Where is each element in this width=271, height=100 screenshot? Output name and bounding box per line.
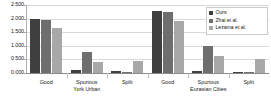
x-axis-category-label: Good	[148, 79, 189, 86]
y-axis-tick-label: 1.000	[11, 43, 24, 48]
bar	[192, 71, 202, 73]
y-axis-tick-label: 1.500	[11, 29, 24, 34]
bar	[82, 52, 92, 73]
bar	[244, 72, 254, 73]
x-axis-category-label: Split	[229, 79, 270, 86]
x-axis-separator	[229, 73, 230, 78]
x-axis-separator	[148, 73, 149, 78]
bar	[255, 59, 265, 73]
x-axis-category-label: SpuriousYork Urban	[67, 79, 108, 92]
x-axis-category-name: Split	[122, 79, 133, 85]
bar	[174, 21, 184, 73]
x-axis: GoodSpuriousYork UrbanSplitGoodSpuriousE…	[26, 79, 269, 100]
legend-item[interactable]: Zhai et al.	[209, 17, 265, 25]
y-axis-tick-label: 2.000	[11, 16, 24, 21]
x-axis-category-name: Spurious	[198, 79, 219, 85]
bar	[93, 62, 103, 73]
x-axis-separator	[107, 73, 108, 78]
bar	[111, 71, 121, 73]
legend-item[interactable]: Ours	[209, 10, 265, 18]
legend-item[interactable]: Lezama et al.	[209, 25, 265, 33]
y-axis: 2.5002.0001.5001.0000.5000.000	[0, 0, 26, 80]
bar	[71, 70, 81, 73]
bar-group	[26, 5, 67, 73]
x-axis-category-label: Split	[107, 79, 148, 86]
x-axis-category-label: Good	[26, 79, 67, 86]
legend-swatch-icon	[209, 11, 213, 15]
legend-label: Ours	[216, 10, 227, 16]
bar	[122, 72, 132, 73]
bar-group	[107, 5, 148, 73]
bar-chart: 2.5002.0001.5001.0000.5000.000 GoodSpuri…	[0, 0, 271, 100]
bar	[163, 12, 173, 73]
chart-legend: OursZhai et al.Lezama et al.	[206, 7, 268, 35]
legend-swatch-icon	[209, 26, 213, 30]
bar-group	[148, 5, 189, 73]
x-axis-category-label: SpuriousEurasian Cities	[188, 79, 229, 92]
bar	[133, 61, 143, 73]
bar	[30, 19, 40, 73]
x-axis-separator	[67, 73, 68, 78]
bar	[41, 20, 51, 73]
x-axis-dataset-label: York Urban	[67, 86, 108, 93]
bar	[52, 28, 62, 73]
x-axis-category-name: Spurious	[76, 79, 97, 85]
y-axis-tick-label: 2.500	[11, 2, 24, 7]
y-axis-tick-label: 0.000	[11, 70, 24, 75]
x-axis-category-name: Split	[244, 79, 255, 85]
y-axis-tick-label: 0.500	[11, 57, 24, 62]
legend-swatch-icon	[209, 19, 213, 23]
legend-label: Lezama et al.	[216, 25, 247, 31]
bar	[233, 72, 243, 73]
x-axis-separator	[188, 73, 189, 78]
legend-label: Zhai et al.	[216, 18, 238, 24]
bar	[152, 11, 162, 73]
bar-group	[67, 5, 108, 73]
x-axis-dataset-label: Eurasian Cities	[188, 86, 229, 93]
bar	[203, 46, 213, 73]
x-axis-category-name: Good	[161, 79, 174, 85]
x-axis-category-name: Good	[40, 79, 53, 85]
bar	[214, 56, 224, 73]
